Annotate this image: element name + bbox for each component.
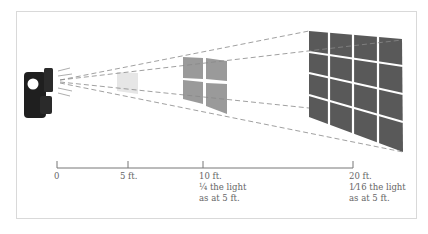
mid-grid-panel bbox=[183, 57, 227, 114]
annotation-20ft-line1: 1⁄16 the light bbox=[349, 182, 406, 193]
tick-label-20ft: 20 ft. bbox=[349, 171, 372, 182]
tick-label-0: 0 bbox=[54, 171, 59, 182]
annotation-20ft-line2: as at 5 ft. bbox=[349, 193, 390, 204]
flash-icon bbox=[24, 68, 53, 118]
near-panel bbox=[117, 72, 138, 94]
distance-axis bbox=[57, 161, 353, 168]
annotation-10ft-line1: ¼ the light bbox=[199, 182, 246, 193]
fraction-sixteenth: 1⁄16 bbox=[349, 182, 367, 192]
fraction-quarter: ¼ bbox=[199, 182, 207, 192]
annotation-10ft-line2: as at 5 ft. bbox=[199, 193, 240, 204]
tick-label-5ft: 5 ft. bbox=[120, 171, 137, 182]
tick-label-10ft: 10 ft. bbox=[199, 171, 222, 182]
